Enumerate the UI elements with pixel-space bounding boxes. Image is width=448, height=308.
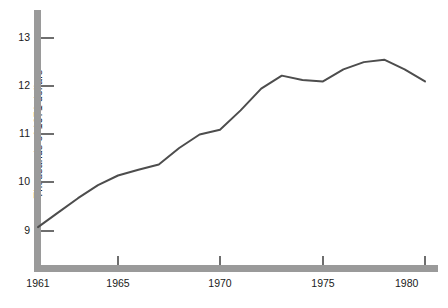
chart-figure: Thousands of 1971 dollars 13 12 11 10 9 … [0, 0, 448, 308]
data-line-median-family-income [38, 60, 425, 227]
plot-area [0, 0, 448, 308]
